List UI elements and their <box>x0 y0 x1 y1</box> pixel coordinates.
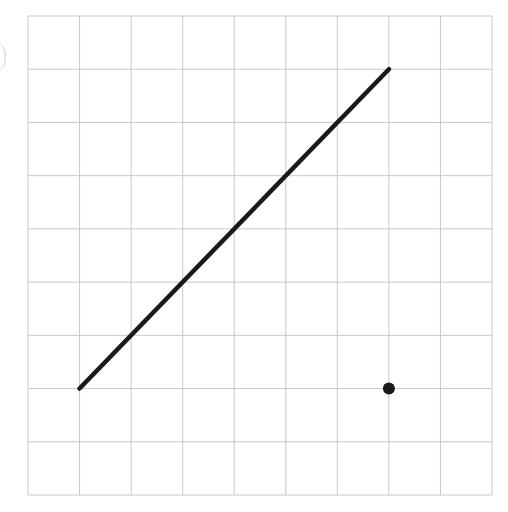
coordinate-grid-diagram <box>0 0 508 512</box>
grid-lines <box>28 16 492 495</box>
point-marker <box>383 383 395 395</box>
